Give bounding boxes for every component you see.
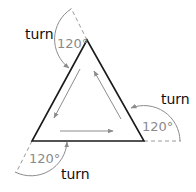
right-angle-label: 120° [142,120,173,133]
right-turn-label: turn [161,92,190,106]
bottom-angle-label: 120° [29,152,60,165]
triangle [32,40,144,141]
top-angle-label: 120° [57,37,88,50]
bottom-turn-label: turn [61,167,90,181]
right-edge-direction-arrow [94,71,121,119]
top-turn-label: turn [25,27,54,41]
